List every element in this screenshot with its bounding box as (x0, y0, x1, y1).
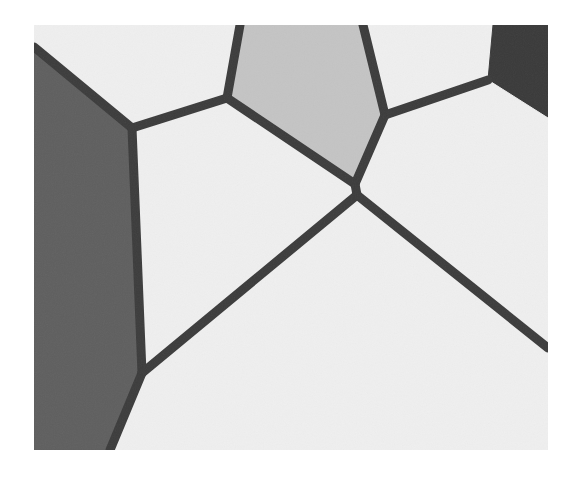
voronoi-diagram (0, 0, 581, 483)
scan-grain-texture (34, 25, 548, 450)
voronoi-diagram-canvas (0, 0, 581, 483)
